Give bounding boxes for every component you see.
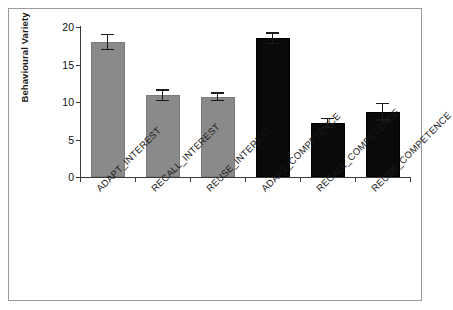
error-bar-stem (107, 34, 108, 51)
error-bar-cap-top (101, 34, 114, 35)
x-tick-mark (135, 178, 136, 182)
error-bar-cap-top (211, 92, 224, 93)
x-tick-mark (300, 178, 301, 182)
x-tick-mark (410, 178, 411, 182)
y-tick-mark (76, 140, 80, 141)
x-tick-mark (355, 178, 356, 182)
error-bar-cap-top (156, 89, 169, 90)
x-tick-mark (190, 178, 191, 182)
y-tick-label: 0 (68, 171, 74, 183)
y-tick-label: 15 (62, 59, 74, 71)
x-tick-mark (80, 178, 81, 182)
bar-adapt-interest[interactable] (91, 42, 125, 177)
y-tick-label: 5 (68, 134, 74, 146)
y-tick-label: 10 (62, 96, 74, 108)
error-bar-cap-top (376, 103, 389, 104)
bar-adapt-competence[interactable] (256, 38, 290, 177)
y-tick-label: 20 (62, 21, 74, 33)
y-tick-mark (76, 102, 80, 103)
y-tick-mark (76, 27, 80, 28)
error-bar-cap-bottom (101, 49, 114, 50)
error-bar-cap-bottom (266, 43, 279, 44)
error-bar-cap-bottom (156, 100, 169, 101)
y-tick-mark (76, 65, 80, 66)
error-bar-cap-bottom (211, 100, 224, 101)
x-tick-mark (245, 178, 246, 182)
error-bar-cap-top (266, 32, 279, 33)
y-axis-title: Behavioural Variety (19, 0, 30, 128)
